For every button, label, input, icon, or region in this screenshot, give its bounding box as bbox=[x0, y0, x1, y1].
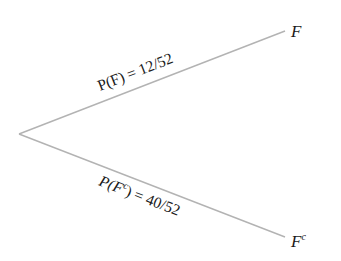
branch-line-F bbox=[19, 31, 285, 134]
tree-svg: F Fc P(F) = 12/52 P(Fc) = 40/52 bbox=[0, 0, 341, 261]
probability-tree-diagram: F Fc P(F) = 12/52 P(Fc) = 40/52 bbox=[0, 0, 341, 261]
edge-label-F-complement: P(Fc) = 40/52 bbox=[96, 171, 184, 220]
node-label-F: F bbox=[290, 22, 302, 41]
edge-label-F: P(F) = 12/52 bbox=[95, 49, 176, 94]
branch-line-F-complement bbox=[19, 134, 285, 237]
node-label-F-complement: Fc bbox=[290, 231, 306, 251]
